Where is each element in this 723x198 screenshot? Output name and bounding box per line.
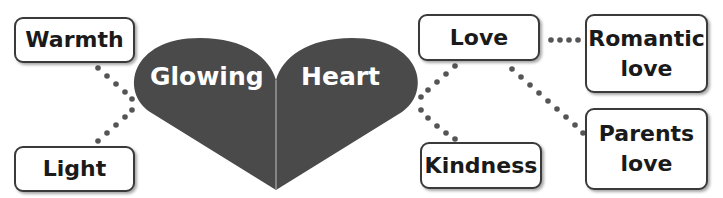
box-kindness-label: Kindness	[425, 151, 538, 181]
box-parents-love-line2: love	[621, 149, 673, 179]
heart-label-heart: Heart	[301, 62, 380, 91]
box-light: Light	[14, 146, 135, 192]
box-kindness: Kindness	[420, 142, 542, 189]
concept-diagram: Glowing Heart Warmth Light Love Kindness…	[0, 0, 723, 198]
box-warmth-label: Warmth	[25, 25, 123, 55]
heart-label-glowing: Glowing	[150, 62, 264, 91]
box-parents-love: Parents love	[585, 108, 708, 190]
box-parents-love-line1: Parents	[599, 119, 694, 149]
box-love: Love	[418, 14, 540, 61]
box-love-label: Love	[450, 23, 508, 53]
box-romantic-love-line2: love	[621, 54, 673, 84]
heart-shape	[134, 38, 418, 190]
box-warmth: Warmth	[14, 17, 135, 63]
box-romantic-love: Romantic love	[585, 14, 708, 93]
box-romantic-love-line1: Romantic	[588, 24, 705, 54]
box-light-label: Light	[43, 154, 107, 184]
